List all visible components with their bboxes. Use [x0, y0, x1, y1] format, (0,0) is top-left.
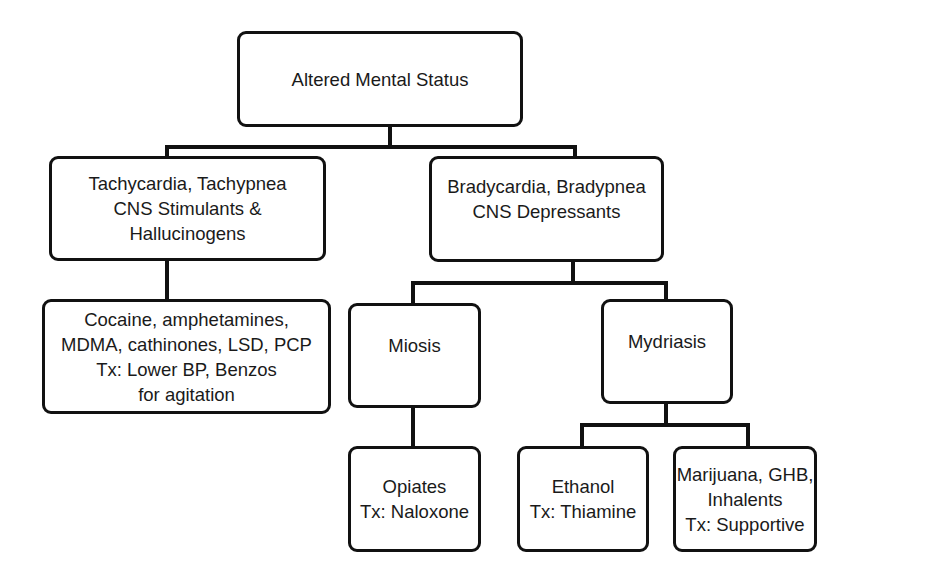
connector-to-other-depressants: [746, 423, 750, 448]
node-label: Bradycardia, Bradypnea CNS Depressants: [447, 174, 645, 224]
connector-to-ethanol: [580, 423, 584, 448]
connector-to-miosis: [411, 281, 415, 305]
node-label: Altered Mental Status: [292, 67, 469, 92]
node-label: Miosis: [388, 333, 440, 358]
node-label: Marijuana, GHB, Inhalents Tx: Supportive: [677, 462, 814, 537]
node-other-depressants: Marijuana, GHB, Inhalents Tx: Supportive: [673, 446, 817, 552]
node-cns-depressants: Bradycardia, Bradypnea CNS Depressants: [429, 156, 664, 262]
node-ethanol: Ethanol Tx: Thiamine: [517, 446, 649, 552]
node-miosis: Miosis: [348, 303, 481, 408]
node-label: Tachycardia, Tachypnea CNS Stimulants & …: [88, 171, 286, 246]
connector-depressants-bar: [411, 281, 668, 285]
connector-miosis-to-opiates: [411, 405, 415, 448]
connector-to-mydriasis: [664, 281, 668, 301]
node-label: Mydriasis: [628, 329, 706, 354]
node-mydriasis: Mydriasis: [601, 299, 733, 404]
node-label: Cocaine, amphetamines, MDMA, cathinones,…: [61, 307, 312, 407]
connector-mydriasis-bar: [580, 423, 750, 427]
node-label: Ethanol Tx: Thiamine: [530, 474, 637, 524]
node-cns-stimulants: Tachycardia, Tachypnea CNS Stimulants & …: [49, 156, 326, 261]
node-opiates: Opiates Tx: Naloxone: [348, 446, 481, 552]
node-altered-mental-status: Altered Mental Status: [237, 31, 523, 127]
node-stimulant-agents: Cocaine, amphetamines, MDMA, cathinones,…: [42, 299, 331, 414]
node-label: Opiates Tx: Naloxone: [360, 474, 469, 524]
connector-root-bar: [165, 145, 577, 149]
connector-stimulants-to-agents: [165, 258, 169, 301]
